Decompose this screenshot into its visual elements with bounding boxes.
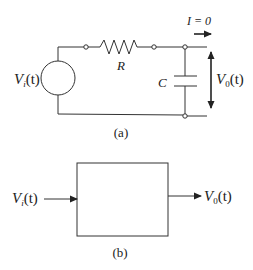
output-label: V0(t)	[204, 188, 232, 206]
current-label: I = 0	[186, 14, 211, 28]
terminal-node	[183, 45, 187, 49]
terminal-node	[152, 45, 156, 49]
terminal-node	[183, 114, 187, 118]
wire-bottom	[58, 95, 183, 115]
system-block	[77, 163, 168, 236]
capacitor-label: C	[158, 75, 167, 90]
output-label: V0(t)	[216, 71, 244, 89]
caption-a: (a)	[114, 125, 128, 140]
caption-b: (b)	[112, 245, 127, 260]
wire-top-left	[58, 47, 84, 61]
resistor-icon	[88, 40, 152, 54]
terminal-node	[84, 45, 88, 49]
voltage-source-icon	[41, 61, 75, 95]
rc-circuit: Vi(t) R C I = 0 V0(t) (a)	[14, 14, 244, 140]
source-label: Vi(t)	[14, 71, 40, 89]
resistor-label: R	[116, 58, 125, 73]
block-diagram: Vi(t) V0(t) (b)	[12, 163, 232, 260]
input-label: Vi(t)	[12, 190, 38, 208]
diagram-canvas: Vi(t) R C I = 0 V0(t) (a) Vi(t)	[0, 0, 253, 270]
